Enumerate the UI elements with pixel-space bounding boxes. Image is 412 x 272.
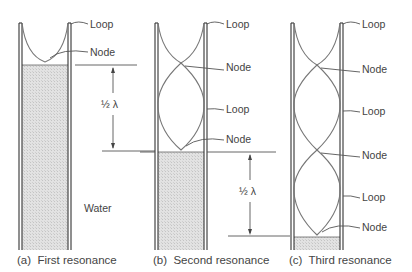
label-c-loop-1: Loop — [362, 18, 386, 30]
label-c-node-2: Node — [362, 149, 387, 161]
label-c-node-3: Node — [362, 221, 387, 233]
resonance-diagram: Loop Node Water ½ λ Loop Node Loop Node — [0, 0, 412, 272]
standing-wave-b — [158, 23, 204, 63]
caption-c: (c) Third resonance — [289, 254, 392, 266]
standing-wave-a — [22, 23, 68, 62]
water-label: Water — [84, 202, 112, 214]
label-c-loop-3: Loop — [362, 191, 386, 203]
label-c-loop-2: Loop — [362, 105, 386, 117]
water-column-a — [22, 65, 68, 250]
label-c-node-1: Node — [362, 63, 387, 75]
label-b-node-2: Node — [226, 133, 251, 145]
caption-a: (a) First resonance — [17, 254, 117, 266]
tube-a — [19, 22, 88, 250]
water-column-b — [158, 152, 204, 250]
tube-b — [155, 22, 224, 250]
tube-c — [291, 22, 360, 250]
label-b-loop-2: Loop — [226, 103, 250, 115]
half-wavelength-label-1: ½ λ — [101, 98, 119, 110]
standing-wave-c — [294, 23, 340, 65]
caption-b: (b) Second resonance — [153, 254, 269, 266]
label-b-node-1: Node — [226, 61, 251, 73]
water-column-c — [294, 237, 340, 250]
label-a-node: Node — [90, 46, 115, 58]
label-b-loop-1: Loop — [226, 18, 250, 30]
label-a-loop: Loop — [90, 18, 114, 30]
half-wavelength-label-2: ½ λ — [239, 185, 257, 197]
